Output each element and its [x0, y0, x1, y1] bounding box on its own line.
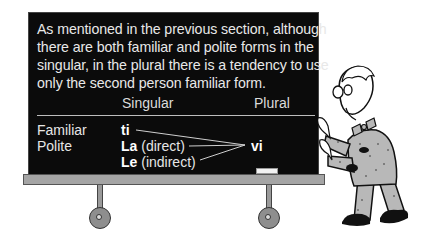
professor-character-icon: [318, 60, 425, 240]
right-wheel-icon: [258, 207, 280, 229]
chalk-ledge: [23, 174, 325, 185]
left-wheel-icon: [89, 207, 111, 229]
